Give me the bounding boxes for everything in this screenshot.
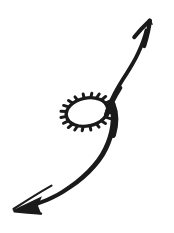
sketch-canvas — [0, 0, 174, 233]
lower-curve-root — [113, 104, 116, 135]
hand-drawn-arrow-illustration — [0, 0, 174, 233]
